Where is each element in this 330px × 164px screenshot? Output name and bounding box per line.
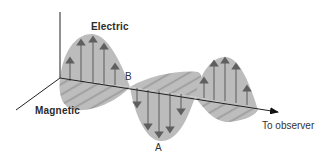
point-b-label: B: [125, 72, 132, 82]
to-observer-label: To observer: [262, 121, 314, 131]
em-wave-diagram: Electric Magnetic B A To observer: [0, 0, 330, 164]
electric-label: Electric: [91, 22, 129, 32]
magnetic-label: Magnetic: [35, 106, 80, 116]
point-a-label: A: [155, 143, 162, 153]
wave-illustration: [0, 0, 330, 164]
